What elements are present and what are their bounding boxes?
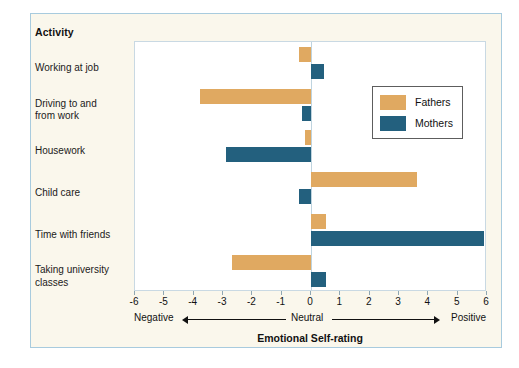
legend-item-fathers: Fathers (380, 93, 453, 111)
category-label-2: Housework (35, 145, 135, 158)
x-tick-5 (457, 291, 458, 295)
chart-legend: Fathers Mothers (372, 86, 463, 139)
x-tick-3 (398, 291, 399, 295)
legend-label-mothers: Mothers (415, 117, 453, 129)
x-tick--5 (163, 291, 164, 295)
legend-swatch-mothers (380, 116, 406, 131)
axis-annotation-positive: Positive (451, 312, 486, 323)
x-tick-label--3: -3 (210, 296, 234, 307)
bar-mothers-3 (299, 189, 311, 204)
zero-axis-line (311, 42, 312, 290)
x-tick--4 (193, 291, 194, 295)
chart-card: Activity Working at jobDriving to andfro… (30, 13, 502, 348)
plot-area (134, 41, 486, 291)
category-label-4: Time with friends (35, 229, 135, 242)
category-label-1: Driving to andfrom work (35, 98, 135, 123)
x-tick-label-0: 0 (298, 296, 322, 307)
legend-label-fathers: Fathers (415, 96, 451, 108)
x-tick-label--4: -4 (181, 296, 205, 307)
bar-fathers-0 (299, 47, 311, 62)
legend-swatch-fathers (380, 95, 406, 110)
x-tick--2 (251, 291, 252, 295)
x-tick-0 (310, 291, 311, 295)
axis-arrow-line-left (188, 319, 286, 320)
x-tick-4 (427, 291, 428, 295)
bar-mothers-0 (311, 64, 324, 79)
x-axis-annotation-row: NegativeNeutralPositive (134, 312, 486, 328)
category-label-5: Taking universityclasses (35, 264, 135, 289)
legend-item-mothers: Mothers (380, 114, 453, 132)
axis-arrow-head-left (182, 316, 188, 324)
x-tick-label--6: -6 (122, 296, 146, 307)
bar-fathers-4 (311, 214, 326, 229)
bar-fathers-1 (200, 89, 311, 104)
axis-annotation-neutral: Neutral (291, 312, 323, 323)
x-tick-label-2: 2 (357, 296, 381, 307)
x-tick--3 (222, 291, 223, 295)
x-tick-label-4: 4 (415, 296, 439, 307)
x-tick-label-6: 6 (474, 296, 498, 307)
x-tick-label--1: -1 (269, 296, 293, 307)
category-label-0: Working at job (35, 62, 135, 75)
category-label-3: Child care (35, 187, 135, 200)
x-tick-label--5: -5 (151, 296, 175, 307)
bar-mothers-1 (302, 106, 311, 121)
x-axis: NegativeNeutralPositive Emotional Self-r… (134, 291, 486, 351)
bar-fathers-3 (311, 172, 417, 187)
x-tick--6 (134, 291, 135, 295)
bar-mothers-2 (226, 147, 311, 162)
x-tick-6 (486, 291, 487, 295)
x-tick-label-1: 1 (327, 296, 351, 307)
x-tick-1 (339, 291, 340, 295)
axis-annotation-negative: Negative (134, 312, 173, 323)
x-tick-2 (369, 291, 370, 295)
bar-fathers-5 (232, 255, 311, 270)
x-tick--1 (281, 291, 282, 295)
axis-arrow-line-right (332, 319, 434, 320)
x-tick-label-3: 3 (386, 296, 410, 307)
x-tick-label-5: 5 (445, 296, 469, 307)
axis-arrow-head-right (434, 316, 440, 324)
x-tick-label--2: -2 (239, 296, 263, 307)
activity-column-header: Activity (35, 26, 74, 38)
bar-mothers-5 (311, 272, 326, 287)
x-axis-title: Emotional Self-rating (134, 332, 486, 344)
bar-fathers-2 (305, 130, 311, 145)
bar-mothers-4 (311, 231, 484, 246)
plot-area-wrapper: Fathers Mothers (134, 41, 486, 291)
